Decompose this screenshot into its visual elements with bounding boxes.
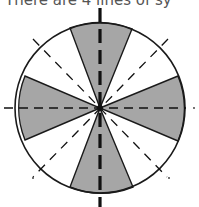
center-point (97, 105, 103, 111)
dot-bottom-left (32, 177, 34, 179)
dot-bottom-right (168, 177, 170, 179)
dot-right (193, 107, 195, 109)
symmetry-diagram (0, 0, 199, 207)
